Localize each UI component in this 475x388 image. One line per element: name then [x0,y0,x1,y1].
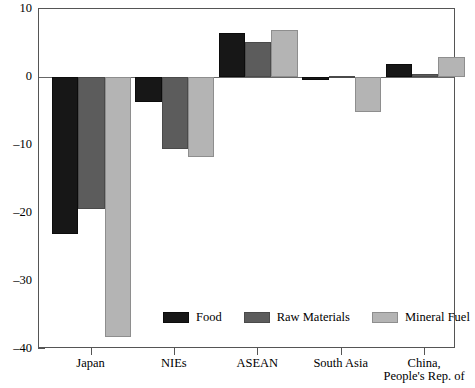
bar [105,77,131,337]
x-category-label: ASEAN [236,357,278,370]
x-category-label-line1: ASEAN [236,356,278,370]
x-category-label-line1: China, [408,356,441,370]
x-tick-mark [341,348,342,355]
y-tick-label: –20 [13,206,32,219]
x-tick-mark [91,348,92,355]
x-category-label-line1: South Asia [313,356,368,370]
x-category-label-line2: People's Rep. of [384,370,465,383]
chart-legend: FoodRaw MaterialsMineral Fuel [163,310,475,325]
bar [302,77,328,80]
x-tick-mark [174,348,175,355]
legend-label: Raw Materials [277,310,350,325]
legend-entry: Mineral Fuel [372,310,470,325]
bar [78,77,104,209]
y-tick-mark [38,348,45,349]
y-tick-label: 10 [20,2,33,15]
y-tick-label: –10 [13,138,32,151]
bar [438,57,464,77]
x-category-label: NIEs [161,357,187,370]
legend-label: Food [196,310,222,325]
y-tick-label: –40 [13,342,32,355]
plot-area [38,8,455,348]
legend-entry: Raw Materials [244,310,350,325]
x-category-label: China,People's Rep. of [384,357,465,383]
bar [219,33,245,77]
x-category-label: Japan [76,357,104,370]
x-category-label-line1: Japan [76,356,104,370]
bar [162,77,188,149]
bar [188,77,214,157]
legend-label: Mineral Fuel [405,310,470,325]
legend-entry: Food [163,310,222,325]
legend-swatch [372,312,398,323]
x-tick-mark [257,348,258,355]
bar [245,42,271,77]
bar [271,30,297,77]
bar [329,76,355,78]
x-tick-mark [424,348,425,355]
x-category-label-line1: NIEs [161,356,187,370]
bar [52,77,78,234]
legend-swatch [244,312,270,323]
y-tick-label: –30 [13,274,32,287]
x-category-label: South Asia [313,357,368,370]
bar [412,74,438,77]
legend-swatch [163,312,189,323]
bar [355,77,381,112]
bar [135,77,161,102]
bar [386,64,412,77]
y-tick-label: 0 [26,70,32,83]
y-axis: 100–10–20–30–40 [0,0,32,388]
